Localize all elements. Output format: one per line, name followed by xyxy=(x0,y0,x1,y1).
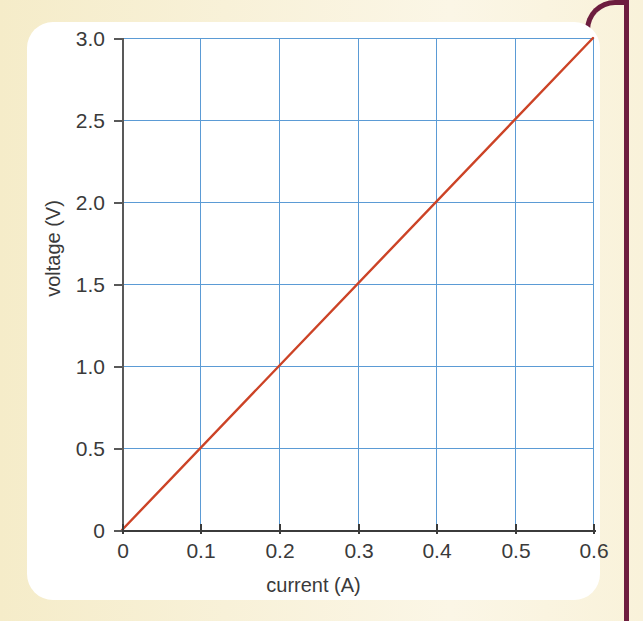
y-axis-tick xyxy=(114,284,124,286)
figure-card: 3.0 2.5 2.0 1.5 1.0 0.5 0 0 0.1 0.2 0.3 … xyxy=(27,22,600,600)
x-axis-tick xyxy=(279,524,281,534)
y-axis-tick-label: 0.5 xyxy=(35,438,105,459)
x-axis-tick-label: 0.3 xyxy=(319,540,399,561)
data-series-line xyxy=(122,38,594,530)
x-axis-tick-label: 0 xyxy=(83,540,163,561)
y-axis-tick xyxy=(114,202,124,204)
y-axis-tick-label: 2.5 xyxy=(35,110,105,131)
y-axis-title: voltage (V) xyxy=(42,159,65,339)
y-axis-tick xyxy=(114,120,124,122)
y-axis-tick-label: 1.0 xyxy=(35,356,105,377)
figure-page: 3.0 2.5 2.0 1.5 1.0 0.5 0 0 0.1 0.2 0.3 … xyxy=(0,0,643,621)
y-axis-tick-label: 3.0 xyxy=(35,28,105,49)
x-axis-tick-label: 0.6 xyxy=(554,540,634,561)
x-axis-tick xyxy=(515,524,517,534)
x-axis-tick xyxy=(122,524,124,534)
x-axis-tick-label: 0.1 xyxy=(161,540,241,561)
y-axis-tick xyxy=(114,366,124,368)
x-axis-tick xyxy=(358,524,360,534)
plot-wrapper: 3.0 2.5 2.0 1.5 1.0 0.5 0 0 0.1 0.2 0.3 … xyxy=(27,22,600,600)
x-axis-tick xyxy=(200,524,202,534)
right-margin-rule xyxy=(624,0,629,621)
x-axis-title: current (A) xyxy=(27,574,600,597)
y-axis-tick xyxy=(114,38,124,40)
x-axis-tick-label: 0.5 xyxy=(476,540,556,561)
y-axis-tick-label: 0 xyxy=(35,520,105,541)
x-axis-tick xyxy=(593,524,595,534)
x-axis-tick-label: 0.4 xyxy=(397,540,477,561)
y-axis-tick xyxy=(114,448,124,450)
x-axis-tick xyxy=(436,524,438,534)
x-axis-tick-label: 0.2 xyxy=(240,540,320,561)
